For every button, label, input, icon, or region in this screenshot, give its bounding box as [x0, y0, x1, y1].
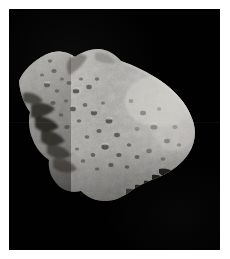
space-background — [9, 9, 220, 250]
lower-limb-darkening — [9, 149, 220, 250]
asteroid-illustration — [9, 9, 220, 250]
image-canvas — [0, 0, 230, 259]
photo-border — [0, 0, 230, 259]
asteroid-body — [9, 9, 220, 250]
caption-strip — [0, 250, 230, 259]
asteroid-surface — [9, 9, 220, 250]
